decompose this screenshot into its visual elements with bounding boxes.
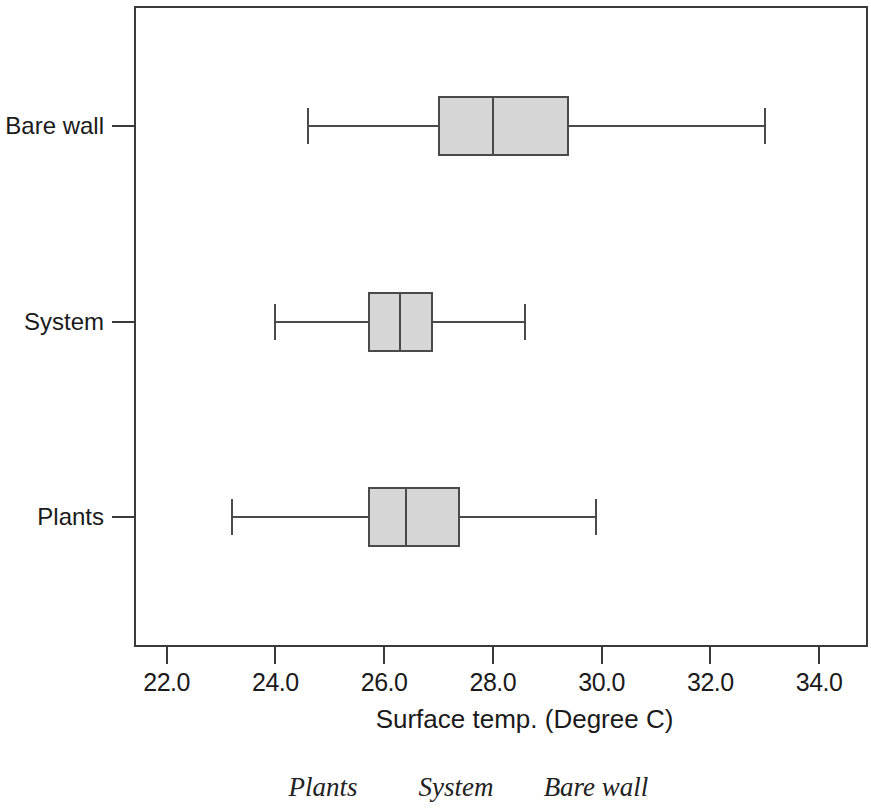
whisker-high-cap [764,108,766,144]
whisker-low-cap [307,108,309,144]
figure-caption: PlantsSystemBare wall [0,772,871,809]
x-tick-label: 28.0 [470,668,517,697]
x-tick-mark [709,647,711,664]
x-tick-mark [383,647,385,664]
whisker-high-line [569,125,765,127]
whisker-low-line [232,516,368,518]
x-tick-mark [492,647,494,664]
whisker-high-cap [595,499,597,535]
x-tick-label: 32.0 [687,668,734,697]
x-tick-mark [166,647,168,664]
y-tick-mark [112,125,134,127]
median-line [492,96,494,156]
caption-item-plants: Plants [288,772,357,803]
whisker-low-line [308,125,438,127]
median-line [399,292,401,352]
box-iqr-rect [368,487,460,547]
y-tick-mark [112,516,134,518]
x-tick-label: 22.0 [143,668,190,697]
y-tick-label-plants: Plants [37,503,104,531]
x-tick-label: 30.0 [578,668,625,697]
x-tick-label: 34.0 [796,668,843,697]
whisker-low-cap [231,499,233,535]
whisker-high-line [460,516,596,518]
x-tick-label: 24.0 [252,668,299,697]
whisker-low-cap [274,304,276,340]
x-axis-title: Surface temp. (Degree C) [0,704,871,735]
x-tick-mark [601,647,603,664]
x-tick-mark [818,647,820,664]
whisker-high-line [433,321,525,323]
median-line [405,487,407,547]
boxplot-figure: Bare wallSystemPlants 22.024.026.028.030… [0,0,871,809]
y-tick-mark [112,321,134,323]
box-iqr-rect [438,96,568,156]
x-tick-label: 26.0 [361,668,408,697]
whisker-high-cap [524,304,526,340]
y-tick-label-bare-wall: Bare wall [5,112,104,140]
caption-item-system: System [419,772,494,803]
x-axis-title-text: Surface temp. (Degree C) [376,704,674,734]
whisker-low-line [275,321,367,323]
caption-item-bare-wall: Bare wall [544,772,649,803]
y-tick-label-system: System [24,308,104,336]
x-tick-mark [274,647,276,664]
